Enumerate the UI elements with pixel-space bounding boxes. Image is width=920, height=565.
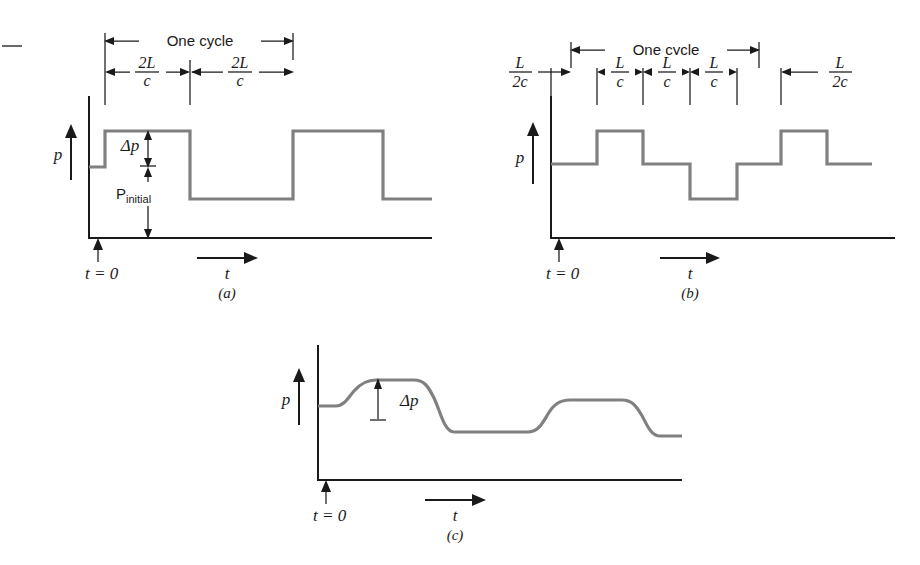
panel-a-t-zero-label: t = 0	[85, 264, 119, 283]
panel-a-p-initial-dimension: Pinitial	[112, 167, 184, 239]
panel-b-segment-2-dimension: L c	[597, 54, 643, 105]
panel-a-segment-1-dimension: 2L c	[105, 54, 190, 105]
panel-b-seg2-numerator: L	[615, 54, 625, 71]
panel-a-seg1-numerator: 2L	[139, 54, 156, 71]
panel-c-t-zero-label: t = 0	[313, 506, 347, 525]
panel-b-y-axis-label: p	[515, 148, 525, 167]
panel-a-t-direction-arrow: t	[197, 252, 258, 283]
panel-c-y-axis-label: p	[281, 390, 291, 409]
panel-b-segment-1-dimension: L 2c	[504, 54, 571, 105]
panel-b-seg5-numerator: L	[835, 54, 845, 71]
panel-c-delta-p-dimension: Δp	[370, 378, 418, 420]
panel-b-segment-5-dimension: L 2c	[781, 54, 858, 105]
panel-a-segment-2-dimension: 2L c	[191, 54, 294, 89]
panel-c-y-axis-label-group: p	[281, 368, 305, 425]
panel-a-delta-p-label: Δp	[120, 136, 139, 155]
panel-b-y-axis-label-group: p	[515, 122, 539, 184]
panel-c-waveform	[318, 380, 682, 436]
panel-a-y-axis-label-group: p	[53, 124, 77, 180]
panel-b-seg3-denominator: c	[663, 73, 670, 90]
panel-a-x-axis-label: t	[225, 264, 231, 283]
pressure-waveform-figure: One cycle 2L c 2L c	[0, 0, 920, 565]
panel-c-t-zero-marker: t = 0	[313, 480, 347, 525]
panel-c-t-direction-arrow: t	[425, 494, 486, 525]
panel-b-waveform	[551, 131, 872, 199]
panel-b-seg1-denominator: 2c	[512, 73, 527, 90]
panel-b-segment-3-dimension: L c	[643, 54, 690, 105]
panel-b-seg5-denominator: 2c	[832, 73, 847, 90]
panel-a-t-zero-marker: t = 0	[85, 238, 119, 283]
panel-b-t-zero-label: t = 0	[546, 264, 580, 283]
panel-b-t-zero-marker: t = 0	[546, 238, 580, 283]
panel-b: One cycle L 2c L c	[504, 40, 895, 302]
panel-b-segment-4-dimension: L c	[690, 54, 737, 105]
panel-b-seg1-numerator: L	[515, 54, 525, 71]
panel-a-seg2-denominator: c	[236, 72, 243, 89]
panel-c: p Δp t = 0 t (c)	[281, 345, 682, 544]
panel-b-x-axis-label: t	[688, 264, 694, 283]
panel-a-delta-p-dimension: Δp	[120, 130, 156, 168]
panel-b-label: (b)	[681, 285, 699, 302]
panel-a: One cycle 2L c 2L c	[53, 31, 432, 302]
panel-c-x-axis-label: t	[453, 506, 459, 525]
panel-a-seg1-denominator: c	[143, 72, 150, 89]
figure-container: One cycle 2L c 2L c	[0, 0, 920, 565]
panel-c-label: (c)	[447, 527, 464, 544]
panel-b-seg3-numerator: L	[662, 54, 672, 71]
panel-b-t-direction-arrow: t	[660, 252, 720, 283]
panel-c-delta-p-label: Δp	[399, 391, 418, 410]
panel-a-label: (a)	[218, 285, 236, 302]
panel-b-seg4-numerator: L	[709, 54, 719, 71]
panel-b-seg4-denominator: c	[710, 73, 717, 90]
panel-b-seg2-denominator: c	[616, 73, 623, 90]
panel-a-one-cycle-label: One cycle	[167, 32, 234, 49]
panel-a-seg2-numerator: 2L	[232, 54, 249, 71]
panel-a-y-axis-label: p	[53, 145, 63, 164]
